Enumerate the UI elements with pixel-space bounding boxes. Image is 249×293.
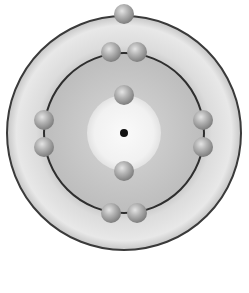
nucleus <box>120 129 128 137</box>
electron-shell-2-5 <box>193 110 213 130</box>
electron-shell-1-1 <box>114 85 134 105</box>
electron-shell-2-6 <box>193 137 213 157</box>
electron-shell-1-2 <box>114 161 134 181</box>
electron-shell-2-1 <box>101 42 121 62</box>
electron-shell-3-1 <box>114 4 134 24</box>
electron-shell-2-7 <box>101 203 121 223</box>
electron-shell-2-8 <box>127 203 147 223</box>
electron-shell-2-3 <box>34 110 54 130</box>
electron-shell-2-2 <box>127 42 147 62</box>
electron-shell-2-4 <box>34 137 54 157</box>
atom-diagram <box>0 0 249 293</box>
